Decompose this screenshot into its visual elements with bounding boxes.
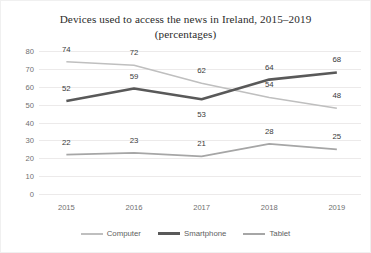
chart-title-line-1: Devices used to access the news in Irela…	[60, 13, 312, 25]
data-label: 53	[197, 110, 206, 119]
y-axis-tick-label: 50	[26, 100, 34, 109]
legend-item-tablet[interactable]: Tablet	[243, 229, 290, 238]
legend-swatch-icon	[81, 233, 103, 235]
series-line-smartphone	[66, 72, 336, 101]
y-axis-tick-label: 0	[30, 190, 34, 199]
y-axis-tick-label: 30	[26, 136, 34, 145]
x-axis-tick-label: 2015	[58, 203, 75, 212]
data-label: 54	[265, 80, 274, 89]
data-label: 25	[333, 132, 342, 141]
chart-title: Devices used to access the news in Irela…	[1, 12, 370, 42]
data-label: 72	[130, 48, 139, 57]
chart-title-line-2: (percentages)	[1, 27, 370, 42]
data-label: 48	[333, 91, 342, 100]
y-axis-tick-label: 70	[26, 64, 34, 73]
data-label: 68	[333, 55, 342, 64]
legend-swatch-icon	[243, 233, 265, 235]
y-axis-tick-label: 80	[26, 47, 34, 56]
y-axis-tick-label: 20	[26, 154, 34, 163]
y-axis-tick-label: 10	[26, 172, 34, 181]
legend-label: Tablet	[269, 229, 290, 238]
legend-swatch-icon	[158, 232, 180, 235]
data-label: 64	[265, 62, 274, 71]
plot-area: 01020304050607080 20152016201720182019 7…	[39, 51, 361, 194]
chart-legend: ComputerSmartphoneTablet	[1, 229, 370, 238]
data-label: 28	[265, 126, 274, 135]
legend-label: Computer	[107, 229, 141, 238]
legend-label: Smartphone	[184, 229, 226, 238]
legend-item-smartphone[interactable]: Smartphone	[158, 229, 226, 238]
gridline	[39, 194, 361, 195]
x-axis-tick-label: 2016	[126, 203, 143, 212]
data-label: 22	[62, 137, 71, 146]
chart-figure: Devices used to access the news in Irela…	[0, 0, 371, 253]
data-label: 59	[130, 71, 139, 80]
x-axis-tick-label: 2018	[261, 203, 278, 212]
data-label: 62	[197, 66, 206, 75]
y-axis-tick-label: 40	[26, 118, 34, 127]
data-label: 52	[62, 84, 71, 93]
data-label: 21	[197, 139, 206, 148]
y-axis-tick-label: 60	[26, 82, 34, 91]
data-label: 23	[130, 135, 139, 144]
data-label: 74	[62, 44, 71, 53]
legend-item-computer[interactable]: Computer	[81, 229, 141, 238]
x-axis-tick-label: 2019	[328, 203, 345, 212]
x-axis-tick-label: 2017	[193, 203, 210, 212]
